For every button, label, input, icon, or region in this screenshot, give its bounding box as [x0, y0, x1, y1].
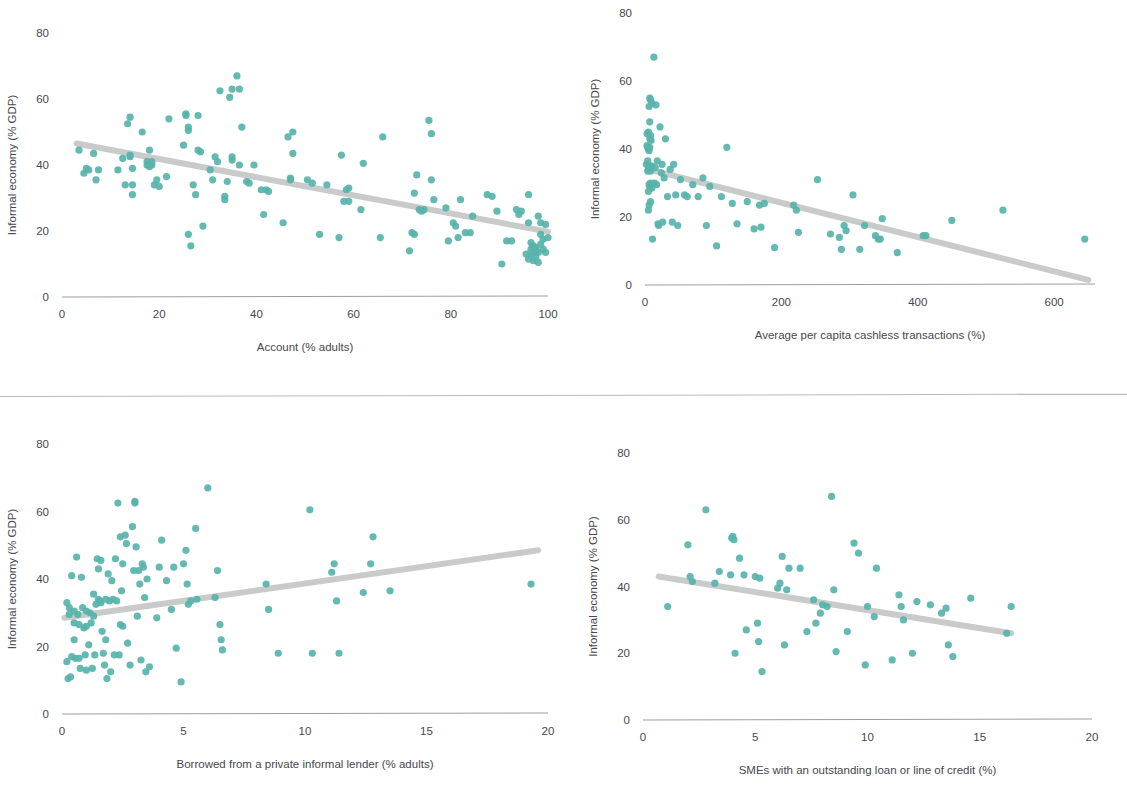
data-point — [357, 206, 364, 213]
data-point — [85, 641, 92, 648]
data-point — [184, 580, 191, 587]
data-point — [535, 259, 542, 266]
data-point — [95, 166, 102, 173]
data-point — [672, 191, 679, 198]
y-tick-label: 20 — [36, 225, 49, 237]
data-point — [265, 188, 272, 195]
data-point — [369, 533, 376, 540]
data-point — [114, 166, 121, 173]
data-point — [214, 567, 221, 574]
data-point — [173, 645, 180, 652]
data-point — [85, 166, 92, 173]
data-point — [744, 198, 751, 205]
data-point — [674, 222, 681, 229]
chart-panel-top-left: 020406080020406080100Account (% adults)I… — [0, 0, 570, 396]
data-point — [289, 150, 296, 157]
data-point — [823, 603, 830, 610]
x-tick-label: 15 — [420, 725, 433, 737]
data-point — [68, 572, 75, 579]
data-point — [113, 597, 120, 604]
y-tick-label: 80 — [36, 27, 49, 39]
x-tick-label: 0 — [640, 731, 646, 743]
data-point — [190, 181, 197, 188]
scatter-plot-cashless: 0204060800200400600Average per capita ca… — [570, 0, 1127, 396]
x-tick-label: 60 — [347, 308, 360, 320]
data-point — [316, 231, 323, 238]
data-point — [335, 650, 342, 657]
data-point — [648, 137, 655, 144]
y-axis-title: Informal economy (% GDP) — [589, 79, 601, 220]
data-point — [656, 123, 663, 130]
data-point — [861, 222, 868, 229]
data-point — [211, 594, 218, 601]
x-tick-label: 0 — [59, 725, 65, 737]
data-point — [126, 152, 133, 159]
data-point — [226, 94, 233, 101]
data-point — [379, 133, 386, 140]
x-tick-label: 15 — [973, 731, 986, 743]
x-tick-label: 20 — [1086, 731, 1099, 743]
data-point — [452, 222, 459, 229]
data-point — [729, 200, 736, 207]
data-point — [140, 564, 147, 571]
data-point — [525, 219, 532, 226]
x-tick-label: 600 — [1044, 296, 1063, 308]
data-point — [684, 193, 691, 200]
data-point — [90, 613, 97, 620]
data-point — [192, 191, 199, 198]
data-point — [949, 653, 956, 660]
x-tick-label: 0 — [642, 296, 648, 308]
data-point — [508, 237, 515, 244]
data-point — [814, 176, 821, 183]
y-tick-label: 60 — [36, 506, 49, 518]
data-point — [134, 613, 141, 620]
data-point — [71, 636, 78, 643]
data-point — [182, 547, 189, 554]
data-point — [877, 236, 884, 243]
data-point — [122, 181, 129, 188]
data-point — [425, 117, 432, 124]
data-point — [795, 229, 802, 236]
data-point — [542, 249, 549, 256]
data-point — [107, 668, 114, 675]
data-point — [90, 150, 97, 157]
y-tick-label: 20 — [619, 211, 632, 223]
data-point — [428, 130, 435, 137]
data-point — [95, 565, 102, 572]
y-tick-label: 40 — [617, 581, 630, 593]
data-point — [467, 229, 474, 236]
data-point — [75, 147, 82, 154]
y-axis-title: Informal economy (% GDP) — [6, 509, 18, 650]
chart-panel-top-right: 0204060800200400600Average per capita ca… — [570, 0, 1127, 396]
data-point — [535, 213, 542, 220]
data-point — [706, 183, 713, 190]
x-tick-label: 80 — [444, 308, 457, 320]
data-point — [119, 560, 126, 567]
data-point — [898, 603, 905, 610]
data-point — [306, 506, 313, 513]
data-point — [695, 193, 702, 200]
data-point — [216, 87, 223, 94]
data-point — [793, 207, 800, 214]
data-point — [420, 206, 427, 213]
data-point — [797, 565, 804, 572]
data-point — [153, 176, 160, 183]
y-axis-title: Informal economy (% GDP) — [6, 95, 18, 236]
data-point — [185, 231, 192, 238]
data-point — [112, 555, 119, 562]
data-point — [180, 560, 187, 567]
data-point — [894, 249, 901, 256]
data-point — [153, 614, 160, 621]
data-point — [146, 663, 153, 670]
data-point — [131, 499, 138, 506]
data-point — [445, 237, 452, 244]
data-point — [689, 181, 696, 188]
data-point — [873, 565, 880, 572]
y-tick-label: 60 — [36, 93, 49, 105]
data-point — [360, 589, 367, 596]
data-point — [229, 86, 236, 93]
data-point — [204, 484, 211, 491]
data-point — [163, 577, 170, 584]
x-axis-line — [645, 284, 1095, 285]
data-point — [716, 568, 723, 575]
